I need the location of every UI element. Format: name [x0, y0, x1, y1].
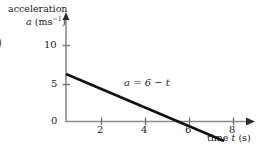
- x-tick-label-6: 6: [185, 125, 191, 135]
- y-axis-variable: a: [26, 16, 32, 27]
- x-tick-label-4: 4: [141, 125, 147, 135]
- x-axis-title: time t (s): [207, 133, 251, 143]
- x-axis-unit: (s): [238, 132, 250, 143]
- y-axis-unit-open: (ms: [35, 16, 53, 27]
- x-axis-variable: t: [232, 132, 236, 143]
- equation-body: = 6 −: [133, 77, 162, 88]
- y-axis-unit-exponent: −1: [52, 15, 62, 23]
- equation-variable-a: a: [124, 77, 130, 88]
- y-axis-title-line-2: a (ms−1): [26, 16, 66, 27]
- y-axis-title-line-1: acceleration: [8, 4, 68, 14]
- y-tick-label-0: 0: [51, 116, 57, 126]
- equation-variable-t: t: [166, 77, 170, 88]
- x-axis-title-text: time: [207, 132, 229, 143]
- equation-annotation: a = 6 − t: [124, 78, 170, 88]
- acceleration-time-graph-figure: ) acceleration a (ms−1) 10 5 0 2 4 6 8 t…: [0, 0, 261, 147]
- y-axis-unit-close: ): [62, 16, 66, 27]
- x-axis-arrowhead-icon: [246, 118, 255, 126]
- y-tick-label-10: 10: [44, 40, 57, 50]
- x-tick-label-2: 2: [97, 125, 103, 135]
- y-tick-label-5: 5: [51, 79, 57, 89]
